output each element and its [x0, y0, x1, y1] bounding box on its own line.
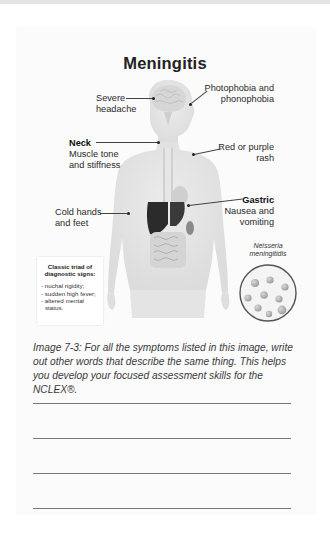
label-photophobia: Photophobia and phonophobia — [200, 83, 274, 105]
triad-heading: Classic triad of diagnostic signs: — [41, 263, 99, 277]
writing-line-3[interactable] — [33, 473, 291, 474]
neisseria-meningitidis-illustration — [240, 265, 296, 321]
pointer-dot — [187, 204, 190, 207]
leader-line-cold-hands — [100, 213, 128, 214]
label-rash: Red or purple rash — [214, 142, 274, 164]
triad-item: - sudden high fever; — [41, 290, 99, 297]
label-cold-hands: Cold hands and feet — [55, 207, 101, 229]
leader-line-neck — [96, 142, 158, 143]
head-with-brain — [149, 80, 194, 144]
writing-line-4[interactable] — [33, 508, 291, 509]
leader-line-headache — [126, 98, 153, 99]
pointer-dot — [127, 212, 130, 215]
writing-line-2[interactable] — [33, 438, 291, 439]
classic-triad-box: Classic triad of diagnostic signs: - nuc… — [37, 257, 103, 325]
pointer-dot — [189, 103, 192, 106]
pointer-dot — [192, 153, 195, 156]
figure-caption: Image 7-3: For all the symptoms listed i… — [33, 341, 303, 397]
torso — [107, 142, 229, 318]
triad-item: - nuchal rigidity; — [41, 282, 99, 289]
writing-line-1[interactable] — [33, 403, 291, 404]
triad-item: - altered mental — [41, 297, 99, 304]
bacteria-label: Neisseria meningitidis — [238, 242, 298, 258]
pointer-dot — [152, 97, 155, 100]
pointer-dot — [157, 141, 160, 144]
label-severe-headache: Severe headache — [96, 93, 136, 115]
triad-item: status. — [41, 304, 99, 311]
